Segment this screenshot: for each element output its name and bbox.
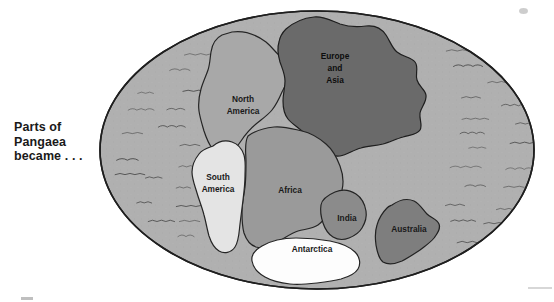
label-south-america-line-1: South: [206, 172, 230, 182]
pangaea-figure: Parts of Pangaea became . . .: [0, 0, 554, 302]
label-antarctica: Antarctica: [292, 244, 333, 254]
label-north-america-line-2: America: [227, 106, 260, 116]
label-europe-and-asia-line-3: Asia: [326, 75, 344, 85]
scan-edge-artifact-right: [528, 287, 552, 289]
label-india: India: [337, 213, 357, 223]
label-south-america-line-2: America: [202, 184, 235, 194]
scan-edge-artifact-left: [21, 297, 33, 300]
label-australia: Australia: [391, 224, 427, 234]
pangaea-map-graphic: Europe and Asia North America South Amer…: [0, 0, 554, 302]
label-europe-and-asia-line-1: Europe: [321, 51, 350, 61]
label-europe-and-asia-line-2: and: [328, 63, 343, 73]
scan-smudge-artifact: [519, 8, 528, 14]
label-north-america-line-1: North: [232, 94, 254, 104]
label-africa: Africa: [278, 185, 302, 195]
